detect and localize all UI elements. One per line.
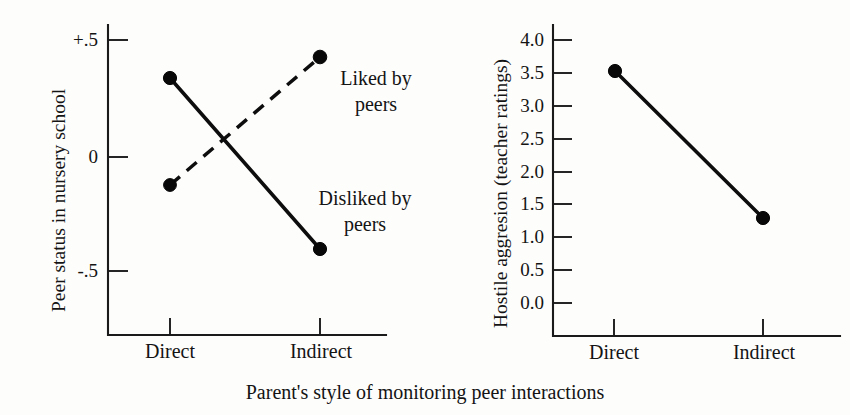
annotation-liked-line-1: Liked by: [328, 66, 424, 92]
right-ytick-label-3-0: 3.0: [492, 95, 544, 117]
right-xtick-label-indirect: Indirect: [709, 341, 819, 364]
annotation-liked-by-peers: Liked by peers: [328, 66, 424, 117]
figure-canvas: Peer status in nursery school +.5 0 -.5 …: [0, 0, 850, 415]
left-ytick-label-plus-half: +.5: [50, 29, 98, 51]
left-chart-panel: Peer status in nursery school +.5 0 -.5 …: [0, 0, 430, 415]
right-axis-lines: [553, 25, 840, 336]
series-disliked-point-direct: [163, 71, 176, 84]
right-chart-panel: Hostile aggresion (teacher ratings) 4.0 …: [430, 0, 850, 415]
right-ytick-label-4-0: 4.0: [492, 29, 544, 51]
left-ytick-label-minus-half: -.5: [50, 260, 98, 282]
right-ytick-label-1-5: 1.5: [492, 193, 544, 215]
annotation-disliked-line-1: Disliked by: [306, 186, 424, 212]
left-ytick-label-zero: 0: [50, 146, 98, 168]
right-ytick-label-1-0: 1.0: [492, 226, 544, 248]
series-hostile-aggression-line: [615, 71, 763, 218]
series-liked-point-indirect: [313, 50, 327, 64]
right-ytick-label-2-5: 2.5: [492, 128, 544, 150]
right-ytick-label-2-0: 2.0: [492, 161, 544, 183]
right-ytick-label-0-5: 0.5: [492, 259, 544, 281]
series-hostile-point-direct: [608, 64, 621, 77]
left-xtick-label-direct: Direct: [120, 340, 220, 363]
series-disliked-point-indirect: [313, 242, 326, 255]
right-ytick-label-0-0: 0.0: [492, 292, 544, 314]
annotation-disliked-line-2: peers: [306, 212, 424, 238]
series-hostile-point-indirect: [756, 211, 769, 224]
right-xtick-label-direct: Direct: [564, 341, 664, 364]
annotation-liked-line-2: peers: [328, 92, 424, 118]
left-xtick-label-indirect: Indirect: [266, 340, 376, 363]
shared-x-axis-caption: Parent's style of monitoring peer intera…: [175, 381, 675, 404]
right-ytick-label-3-5: 3.5: [492, 62, 544, 84]
series-liked-point-direct: [164, 179, 177, 192]
annotation-disliked-by-peers: Disliked by peers: [306, 186, 424, 237]
